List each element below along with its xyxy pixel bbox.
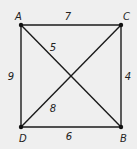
edge-weight-A-B: 5 <box>50 42 56 53</box>
edge-weight-A-C: 7 <box>65 11 72 22</box>
node-label-C: C <box>123 11 130 22</box>
graph-diagram: 746958ACBD <box>0 0 137 149</box>
node-D <box>19 125 23 129</box>
node-label-B: B <box>120 133 127 144</box>
edge-weight-C-B: 4 <box>125 71 131 82</box>
edge-weight-A-D: 9 <box>8 71 14 82</box>
node-A <box>19 23 23 27</box>
node-label-A: A <box>14 11 22 22</box>
edge-weight-D-B: 6 <box>66 131 72 142</box>
node-label-D: D <box>19 133 27 144</box>
node-C <box>119 23 123 27</box>
edge-weight-D-C: 8 <box>50 103 56 114</box>
node-B <box>119 125 123 129</box>
